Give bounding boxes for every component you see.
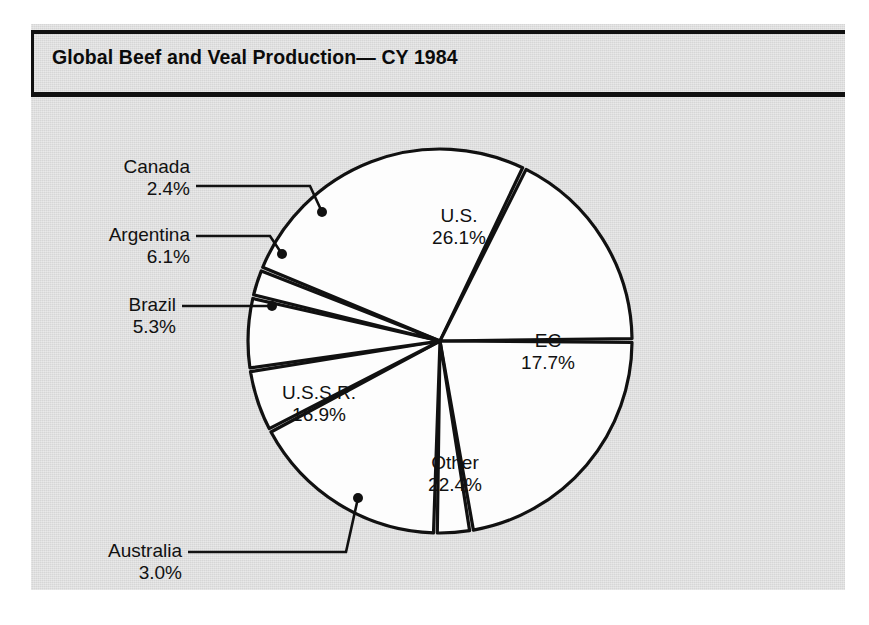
- slice-label-canada-pct: 2.4%: [60, 178, 190, 200]
- slice-label-argentina: Argentina 6.1%: [52, 224, 190, 269]
- leader-dot-brazil: [267, 301, 277, 311]
- slice-label-canada-name: Canada: [60, 156, 190, 178]
- slice-label-ec: EC 17.7%: [498, 330, 598, 375]
- slice-label-other: Other 22.4%: [400, 452, 510, 497]
- slice-label-ec-name: EC: [498, 330, 598, 352]
- slice-label-other-name: Other: [400, 452, 510, 474]
- slice-label-other-pct: 22.4%: [400, 474, 510, 496]
- leader-dot-argentina: [277, 249, 287, 259]
- slice-label-us-pct: 26.1%: [404, 227, 514, 249]
- slice-label-us-name: U.S.: [404, 205, 514, 227]
- slice-label-us: U.S. 26.1%: [404, 205, 514, 250]
- slice-label-argentina-name: Argentina: [52, 224, 190, 246]
- leader-dot-canada: [317, 207, 327, 217]
- figure-root: Global Beef and Veal Production— CY 1984…: [0, 0, 869, 625]
- slice-label-ussr-pct: 16.9%: [256, 404, 382, 426]
- slice-label-argentina-pct: 6.1%: [52, 246, 190, 268]
- slice-label-canada: Canada 2.4%: [60, 156, 190, 201]
- leader-dot-australia: [353, 493, 363, 503]
- leader-line-australia: [188, 498, 358, 552]
- slice-label-ussr-name: U.S.S.R.: [256, 382, 382, 404]
- slice-label-brazil: Brazil 5.3%: [52, 294, 176, 339]
- slice-label-ec-pct: 17.7%: [498, 352, 598, 374]
- slice-label-ussr: U.S.S.R. 16.9%: [256, 382, 382, 427]
- slice-label-australia-pct: 3.0%: [46, 562, 182, 584]
- slice-label-brazil-name: Brazil: [52, 294, 176, 316]
- slice-label-australia: Australia 3.0%: [46, 540, 182, 585]
- slice-label-australia-name: Australia: [46, 540, 182, 562]
- slice-label-brazil-pct: 5.3%: [52, 316, 176, 338]
